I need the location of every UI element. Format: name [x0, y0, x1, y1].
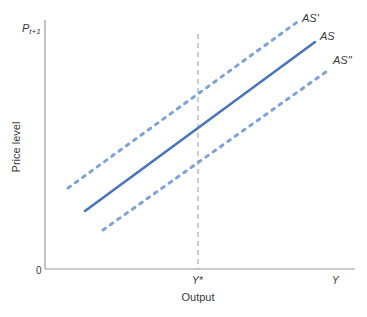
origin-label: 0 [36, 265, 42, 276]
as-prime-label: AS' [301, 12, 320, 24]
as-label: AS [319, 30, 335, 42]
y-axis-title: Price level [10, 122, 22, 173]
as-prime-curve [68, 20, 300, 188]
y-star-tick-label: Y* [192, 275, 204, 286]
as-double-prime-curve [103, 69, 330, 230]
x-axis-title: Output [181, 291, 214, 303]
y-tick-label: Y [332, 275, 340, 286]
as-curve [85, 42, 315, 211]
as-double-prime-label: AS" [332, 54, 353, 66]
y-axis-top-label: Pt+1 [22, 22, 41, 36]
as-curve-chart: AS' AS AS" Pt+1 0 Y* Y Output Price leve… [0, 0, 367, 317]
